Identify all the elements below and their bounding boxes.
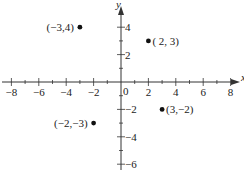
x-tick-label: 8 — [228, 86, 234, 98]
x-tick-label: −4 — [60, 86, 72, 98]
point-label: (−3,4) — [47, 21, 75, 34]
origin-label: 0 — [123, 85, 129, 97]
data-point — [91, 121, 96, 126]
point-label: (−2,−3) — [54, 117, 88, 130]
y-tick-label: −2 — [125, 103, 137, 115]
x-axis-arrow-icon — [231, 79, 240, 85]
point-label: (3,−2) — [166, 103, 194, 116]
x-tick-label: −8 — [6, 86, 18, 98]
y-tick-label: −6 — [125, 158, 137, 170]
ticks: −8−6−4−202468−6−4−224 — [6, 14, 234, 171]
x-axis-name: x — [240, 71, 244, 83]
x-tick-label: 2 — [146, 86, 152, 98]
x-tick-label: 4 — [173, 86, 179, 98]
x-tick-label: 6 — [200, 86, 206, 98]
y-axis-name: y — [115, 0, 121, 10]
coordinate-plane: xy −8−6−4−202468−6−4−224 (−3,4)( 2, 3)(−… — [0, 0, 244, 172]
x-tick-label: −6 — [33, 86, 45, 98]
data-point — [146, 39, 151, 44]
y-tick-label: −4 — [125, 131, 137, 143]
point-label: ( 2, 3) — [152, 35, 179, 48]
data-point — [160, 107, 165, 112]
x-tick-label: −2 — [88, 86, 100, 98]
y-tick-label: 2 — [125, 49, 131, 61]
y-tick-label: 4 — [125, 21, 131, 33]
data-point — [78, 25, 83, 30]
data-points: (−3,4)( 2, 3)(−2,−3)(3,−2) — [47, 21, 194, 130]
